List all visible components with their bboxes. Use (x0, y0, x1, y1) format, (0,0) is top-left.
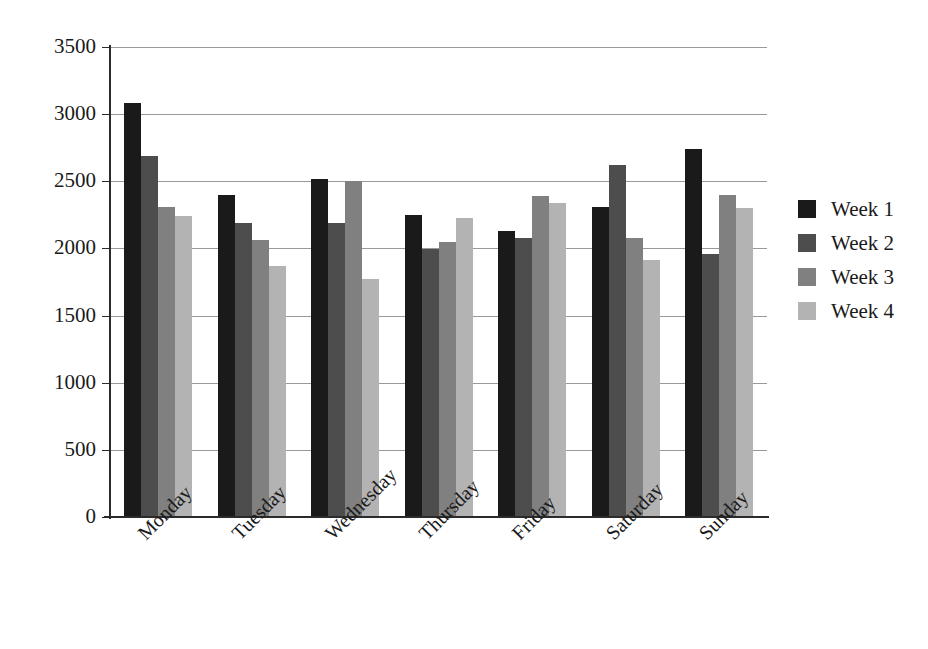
bar (328, 223, 345, 517)
bar (422, 249, 439, 517)
bar (532, 196, 549, 517)
bar (175, 216, 192, 517)
y-axis-tick-label: 3000 (54, 103, 96, 124)
y-axis-tick (102, 316, 111, 317)
legend-swatch-icon (798, 234, 816, 252)
y-axis-tick-label: 0 (86, 506, 97, 527)
bar-group (685, 47, 753, 517)
y-axis-tick-label: 2000 (54, 237, 96, 258)
bar-chart: 3500300025002000150010005000 MondayTuesd… (0, 0, 928, 649)
y-axis-tick-label: 1000 (54, 372, 96, 393)
bar-group (405, 47, 473, 517)
legend-item[interactable]: Week 3 (798, 260, 894, 294)
bar-group (311, 47, 379, 517)
bar (702, 254, 719, 517)
bar (609, 165, 626, 517)
bar (549, 203, 566, 517)
bar (252, 240, 269, 517)
bar (218, 195, 235, 517)
bar (345, 181, 362, 517)
bar (456, 218, 473, 517)
bar (311, 179, 328, 517)
bar (685, 149, 702, 517)
bar (124, 103, 141, 517)
bar (141, 156, 158, 517)
y-axis-tick-label: 3500 (54, 36, 96, 57)
legend-item-label: Week 3 (831, 267, 894, 288)
bar (592, 207, 609, 517)
bar (626, 238, 643, 517)
legend-item-label: Week 1 (831, 199, 894, 220)
y-axis-tick-label: 2500 (54, 170, 96, 191)
legend-item[interactable]: Week 2 (798, 226, 894, 260)
bar-group (124, 47, 192, 517)
y-axis-tick (102, 114, 111, 115)
bar (158, 207, 175, 517)
legend-swatch-icon (798, 302, 816, 320)
y-axis-tick (102, 517, 111, 518)
legend-item-label: Week 2 (831, 233, 894, 254)
y-axis-tick (102, 450, 111, 451)
bar (498, 231, 515, 517)
y-axis-tick (102, 181, 111, 182)
chart-legend: Week 1Week 2Week 3Week 4 (798, 192, 894, 328)
legend-item[interactable]: Week 4 (798, 294, 894, 328)
bar (269, 266, 286, 517)
y-axis-tick (102, 47, 111, 48)
bar-group (498, 47, 566, 517)
legend-item-label: Week 4 (831, 301, 894, 322)
bar (235, 223, 252, 517)
legend-swatch-icon (798, 200, 816, 218)
y-axis-tick-label: 500 (65, 439, 97, 460)
bar (719, 195, 736, 517)
legend-item[interactable]: Week 1 (798, 192, 894, 226)
bar-group (592, 47, 660, 517)
plot-area (110, 47, 767, 517)
y-axis-line (109, 45, 111, 519)
y-axis-tick (102, 248, 111, 249)
y-axis-tick-label: 1500 (54, 305, 96, 326)
y-axis-tick-labels: 3500300025002000150010005000 (0, 0, 96, 649)
bar (439, 242, 456, 517)
bar (515, 238, 532, 517)
legend-swatch-icon (798, 268, 816, 286)
y-axis-tick (102, 383, 111, 384)
bar (736, 208, 753, 517)
bar (405, 215, 422, 517)
bar-group (218, 47, 286, 517)
